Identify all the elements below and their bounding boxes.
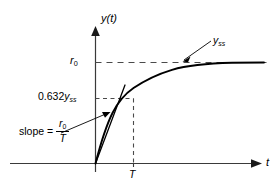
step-response-figure: y(t) t yss r0 0.632yss T slope = r0 T: [0, 0, 277, 191]
slope-annotation: slope = r0 T: [19, 118, 69, 144]
slope-fraction: r0 T: [56, 118, 69, 144]
yss-leader-line: [184, 41, 211, 60]
steady-state-subscript: ss: [218, 40, 225, 47]
y-axis-arrowhead: [91, 26, 100, 36]
tangent-slope-line: [96, 85, 126, 164]
steady-state-annotation: yss: [213, 35, 225, 47]
y-axis-label: y(t): [101, 13, 117, 24]
slope-numerator-subscript: 0: [62, 123, 66, 130]
x-axis-arrowhead: [251, 159, 262, 168]
yss-leader-arrowhead: [183, 57, 191, 63]
r0-subscript: 0: [74, 59, 78, 68]
r0-tick-label: r0: [70, 55, 78, 67]
tau-level-subscript: ss: [70, 96, 77, 103]
tau-level-label: 0.632yss: [38, 91, 76, 103]
tau-level-coefficient: 0.632: [38, 90, 64, 102]
response-curve: [96, 63, 265, 164]
slope-fraction-numerator: r0: [57, 118, 68, 131]
time-constant-tick-label: T: [129, 169, 135, 180]
slope-equation-text: slope =: [19, 126, 53, 137]
x-axis-label: t: [266, 157, 269, 168]
slope-fraction-denominator: T: [57, 132, 67, 144]
